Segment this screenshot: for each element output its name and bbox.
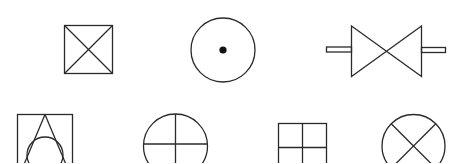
circle-x-icon — [382, 115, 445, 164]
symbol-diagram — [0, 0, 458, 163]
square-x-icon — [65, 26, 113, 74]
square-triangle-circle-icon — [18, 115, 73, 164]
circle-cross-icon — [144, 114, 208, 163]
circle-dot-icon — [191, 18, 255, 82]
valve-icon — [327, 26, 446, 77]
grid-square-icon — [279, 124, 327, 164]
